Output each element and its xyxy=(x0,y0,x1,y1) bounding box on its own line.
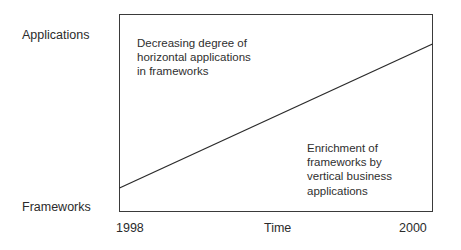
y-axis-bottom-label: Frameworks xyxy=(22,200,91,214)
trend-diagram: Applications Frameworks Decreasing degre… xyxy=(0,0,461,250)
annotation-enrichment-vertical: Enrichment of frameworks by vertical bus… xyxy=(307,141,437,198)
x-axis-title: Time xyxy=(264,221,291,235)
x-axis-tick-end: 2000 xyxy=(399,221,427,235)
y-axis-top-label: Applications xyxy=(22,28,89,42)
x-axis-tick-start: 1998 xyxy=(116,221,144,235)
annotation-decreasing-horizontal: Decreasing degree of horizontal applicat… xyxy=(137,36,287,79)
